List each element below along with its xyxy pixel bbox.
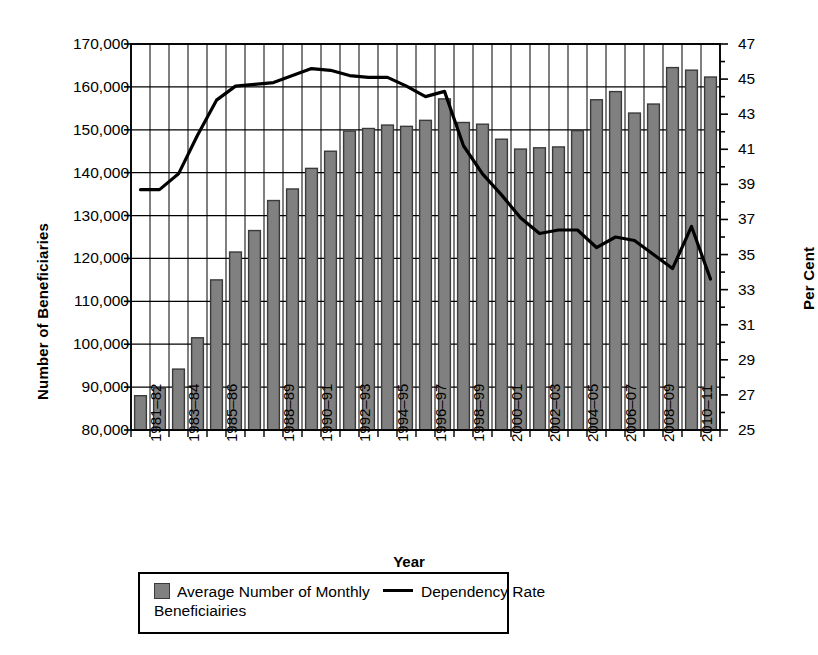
x-axis-tick-label: 1998–99 bbox=[470, 384, 487, 442]
chart-figure: Number of Beneficiaries Per Cent Year 80… bbox=[0, 0, 818, 655]
x-axis-tick-label: 1996–97 bbox=[432, 384, 449, 442]
x-axis-tick-label: 1994–95 bbox=[394, 384, 411, 442]
x-axis-tick-label: 2006–07 bbox=[622, 384, 639, 442]
x-axis-tick-label: 2010–11 bbox=[698, 385, 715, 442]
legend-item-bars[interactable]: Average Number of Monthly Beneficiairies bbox=[154, 582, 374, 620]
x-axis-ticks: 1981–821983–841985–861988–891990–911992–… bbox=[0, 0, 818, 655]
x-axis-tick-label: 1983–84 bbox=[185, 384, 202, 442]
x-axis-tick-label: 2002–03 bbox=[546, 384, 563, 442]
legend-item-line-label: Dependency Rate bbox=[421, 583, 545, 600]
x-axis-tick-label: 2000–01 bbox=[508, 384, 525, 442]
chart-legend: Average Number of Monthly Beneficiairies… bbox=[138, 572, 509, 634]
x-axis-tick-label: 1988–89 bbox=[280, 384, 297, 442]
x-axis-tick-label: 1990–91 bbox=[318, 384, 335, 442]
x-axis-tick-label: 1985–86 bbox=[223, 384, 240, 442]
x-axis-tick-label: 1981–82 bbox=[147, 384, 164, 442]
legend-item-line[interactable]: Dependency Rate bbox=[383, 582, 553, 601]
bar-swatch-icon bbox=[154, 583, 170, 599]
line-swatch-icon bbox=[383, 589, 413, 592]
x-axis-tick-label: 2004–05 bbox=[584, 384, 601, 442]
legend-item-bars-label: Average Number of Monthly Beneficiairies bbox=[154, 583, 370, 619]
x-axis-tick-label: 2008–09 bbox=[660, 384, 677, 442]
x-axis-tick-label: 1992–93 bbox=[356, 384, 373, 442]
